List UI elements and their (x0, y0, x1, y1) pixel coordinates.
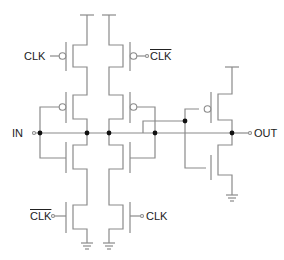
right-stack-rail (109, 15, 123, 243)
clk-bar-label-bottom-left: CLK (30, 211, 51, 222)
clk-bar-label-top-right: CLK (150, 51, 171, 62)
clk-label-bottom-right: CLK (146, 211, 167, 222)
output-label: OUT (254, 128, 277, 139)
input-label: IN (12, 128, 23, 139)
inverter-rail (218, 67, 232, 195)
clk-label-top-left: CLK (24, 51, 45, 62)
left-stack-rail (73, 15, 87, 243)
